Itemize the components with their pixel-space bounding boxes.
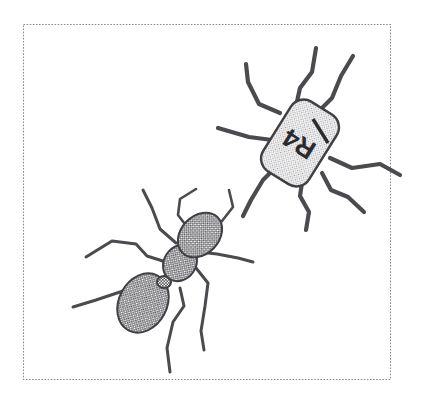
robot-leg-lower-right	[322, 173, 364, 212]
ant-leg-front-left	[143, 190, 176, 243]
scene-svg: R4	[0, 0, 434, 393]
robot-leg-right	[330, 158, 400, 175]
robot-leg-upper-left	[246, 64, 280, 113]
robot-leg-upper-right	[318, 56, 353, 112]
robot-leg-left-front	[218, 128, 272, 140]
ant-leg-middle-left	[86, 241, 166, 262]
ant	[73, 189, 253, 372]
illustration-canvas: R4	[0, 0, 434, 393]
dotted-border-frame	[24, 25, 391, 380]
robot-r4: R4	[218, 48, 400, 230]
ant-leg-middle-right	[196, 268, 208, 350]
robot-leg-upper-middle	[296, 48, 316, 106]
